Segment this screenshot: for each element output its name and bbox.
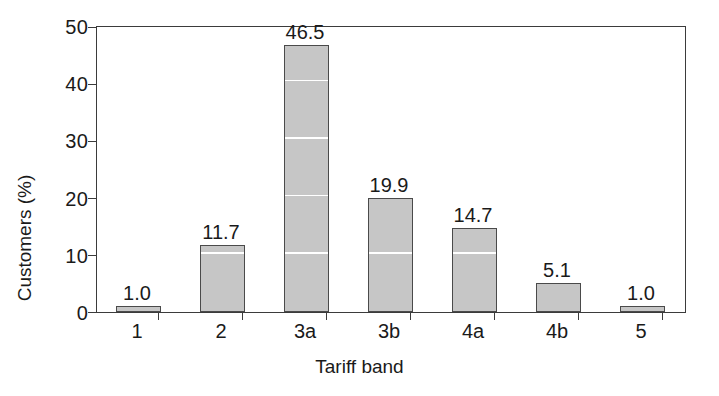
bar-3a (284, 45, 329, 312)
y-axis-tick-20 (88, 198, 97, 199)
y-tick-label-20: 20 (48, 189, 88, 209)
bar-value-label-1: 1.0 (92, 282, 182, 304)
bar-1 (116, 306, 161, 312)
bar-3b (368, 198, 413, 312)
bar-value-label-3b: 19.9 (344, 174, 434, 196)
bar-4a (452, 228, 497, 312)
x-tick-label-5: 5 (596, 319, 686, 343)
bar-chart-figure: 0 10 20 30 40 50 Customers (%) 1.0 11.7 (0, 0, 719, 396)
y-tick-label-30: 30 (48, 131, 88, 151)
gridline-30 (285, 137, 328, 139)
bar-5 (620, 306, 665, 312)
gridline-20 (285, 195, 328, 197)
gridline-10 (369, 252, 412, 254)
y-axis-title: Customers (%) (12, 122, 38, 354)
x-tick-label-4b: 4b (512, 319, 602, 343)
bar-value-label-2: 11.7 (176, 221, 266, 243)
y-axis-tick-50 (88, 27, 97, 28)
bar-2 (200, 245, 245, 312)
x-tick-label-3b: 3b (344, 319, 434, 343)
x-tick-label-1: 1 (92, 319, 182, 343)
x-tick-label-2: 2 (176, 319, 266, 343)
bar-value-label-3a: 46.5 (260, 21, 350, 43)
gridline-10 (453, 252, 496, 254)
y-tick-label-10: 10 (48, 246, 88, 266)
x-axis-title: Tariff band (0, 355, 719, 379)
y-tick-label-50: 50 (48, 17, 88, 37)
gridline-10 (201, 252, 244, 254)
y-axis-tick-10 (88, 255, 97, 256)
bar-value-label-4a: 14.7 (428, 204, 518, 226)
x-tick-label-4a: 4a (428, 319, 518, 343)
y-axis-tick-30 (88, 141, 97, 142)
bar-value-label-4b: 5.1 (512, 259, 602, 281)
gridline-10 (285, 252, 328, 254)
y-axis-tick-0 (88, 312, 97, 313)
y-tick-label-40: 40 (48, 74, 88, 94)
gridline-40 (285, 80, 328, 82)
y-tick-label-0: 0 (48, 303, 88, 323)
bar-4b (536, 283, 581, 312)
x-tick-label-3a: 3a (260, 319, 350, 343)
y-axis-tick-40 (88, 84, 97, 85)
bar-value-label-5: 1.0 (596, 282, 686, 304)
